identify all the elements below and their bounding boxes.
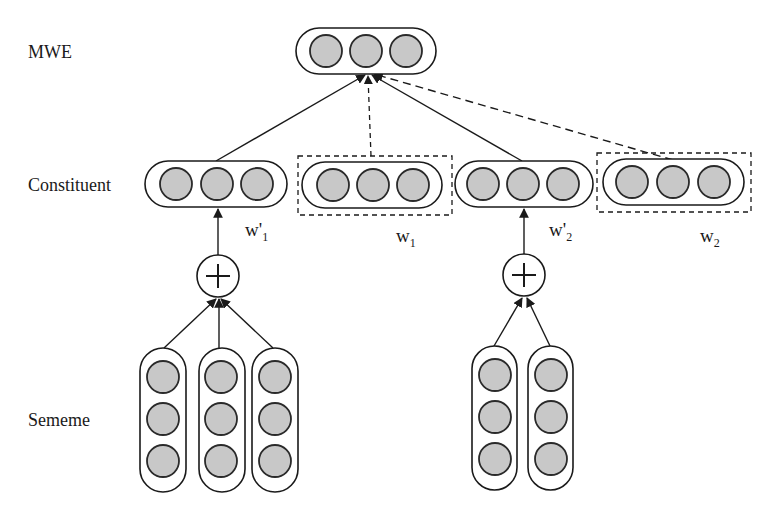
sememe-column [252,348,298,492]
constituent-unit [201,168,233,200]
constituent-unit [160,168,192,200]
sememe-column [140,348,186,492]
mwe-vector [296,28,436,74]
edge-w-2-to-mwe [374,74,673,160]
row-label-constituent: Constituent [28,175,111,195]
sememe-unit [535,443,567,475]
sememe-unit [535,359,567,391]
constituent-w-2 [597,153,751,212]
sememe-unit [535,401,567,433]
mwe-unit [390,35,422,67]
sememe-unit [479,359,511,391]
constituent-w-prime-2 [455,161,593,207]
edge-sememe-1c-to-plus-1 [221,299,273,348]
constituent-unit [547,168,579,200]
constituent-unit [397,169,429,201]
row-label-mwe: MWE [28,42,72,62]
constituent-unit [467,168,499,200]
sememe-group-2 [472,346,573,490]
edge-sememe-2a-to-plus-2 [494,298,522,346]
plus-node-1 [197,255,239,297]
edge-sememe-1a-to-plus-1 [164,299,216,348]
edge-sememe-2b-to-plus-2 [527,298,550,346]
diagram-canvas: MWE Constituent Sememe [0,0,768,517]
constituent-w-1 [298,156,452,215]
constituent-unit [317,169,349,201]
sememe-unit [259,403,291,435]
sememe-unit [259,361,291,393]
constituent-unit [698,166,730,198]
mwe-unit [350,35,382,67]
label-w-prime-2: w'2 [549,219,572,244]
sememe-unit [147,445,179,477]
edge-w-prime-2-to-mwe [372,75,522,161]
sememe-unit [205,403,237,435]
constituent-unit [507,168,539,200]
constituent-unit [616,166,648,198]
sememe-group-1 [140,348,298,492]
edge-w-1-to-mwe [368,76,371,156]
sememe-column [528,346,573,490]
edge-w-prime-1-to-mwe [216,75,365,161]
constituent-unit [241,168,273,200]
label-w-1: w1 [396,225,416,250]
sememe-column [472,346,517,490]
mwe-unit [310,35,342,67]
row-label-sememe: Sememe [28,410,90,430]
label-w-2: w2 [700,225,720,250]
sememe-column [199,348,245,492]
sememe-unit [259,445,291,477]
label-w-prime-1: w'1 [245,219,268,244]
plus-node-2 [503,254,545,296]
constituent-unit [657,166,689,198]
sememe-unit [479,443,511,475]
sememe-unit [147,403,179,435]
constituent-w-prime-1 [145,161,287,207]
sememe-unit [147,361,179,393]
sememe-unit [205,445,237,477]
constituent-unit [357,169,389,201]
sememe-unit [479,401,511,433]
sememe-unit [205,361,237,393]
